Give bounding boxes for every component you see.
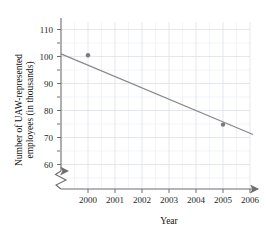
x-tick-label-2001: 2001 (106, 195, 124, 205)
minor-gridlines (61, 22, 250, 189)
y-tick-label-80: 80 (44, 106, 54, 116)
y-tick-label-70: 70 (44, 133, 54, 143)
y-tick-labels: 110 100 90 80 70 60 (40, 25, 54, 170)
trend-line (61, 54, 253, 135)
x-tick-label-2003: 2003 (160, 195, 179, 205)
y-tick-label-110: 110 (40, 25, 54, 35)
x-tick-label-2006: 2006 (241, 195, 260, 205)
data-point-2000 (86, 53, 90, 57)
x-axis-ticks (88, 189, 250, 193)
y-tick-label-90: 90 (44, 79, 54, 89)
y-tick-label-100: 100 (40, 52, 54, 62)
x-tick-label-2000: 2000 (79, 195, 98, 205)
y-axis-title-line-1: Number of UAW-represented (14, 54, 24, 166)
x-tick-label-2002: 2002 (133, 195, 151, 205)
y-axis-title-line-2: employees (in thousands) (25, 61, 36, 158)
y-axis-break-symbol (56, 171, 67, 189)
y-tick-label-60: 60 (44, 160, 54, 170)
y-axis-title: Number of UAW-represented employees (in … (14, 54, 36, 166)
chart-figure: 110 100 90 80 70 60 2000 2001 2002 2003 … (0, 0, 268, 236)
data-point-2006 (221, 122, 225, 126)
x-tick-label-2004: 2004 (187, 195, 206, 205)
x-tick-label-2005: 2005 (214, 195, 233, 205)
axis-lines (56, 18, 259, 189)
line-chart: 110 100 90 80 70 60 2000 2001 2002 2003 … (0, 0, 268, 236)
x-tick-labels: 2000 2001 2002 2003 2004 2005 2006 (79, 195, 260, 205)
x-axis-title: Year (160, 216, 178, 226)
data-series-uaw-employees (61, 53, 253, 135)
y-axis-ticks (57, 30, 61, 165)
